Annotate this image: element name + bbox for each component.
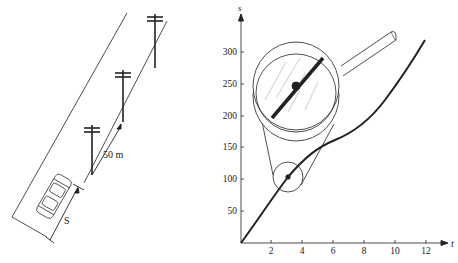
distance-label: 50 m <box>103 149 124 160</box>
magnified-data-point <box>292 82 300 90</box>
data-point <box>286 175 290 179</box>
y-tick-label: 50 <box>228 206 238 216</box>
x-axis-arrow-icon <box>441 241 448 246</box>
magnifying-glass-icon <box>253 32 396 141</box>
car-icon <box>35 173 73 220</box>
position-label: S <box>64 215 70 226</box>
figure-canvas: 50 m S <box>0 0 458 263</box>
road-bottom-edge <box>12 217 47 237</box>
y-tick-label: 250 <box>223 79 238 89</box>
utility-pole-icon <box>84 125 100 175</box>
x-tick-label: 10 <box>390 246 400 256</box>
arrow-icon <box>117 124 121 129</box>
magnifier-handle <box>341 32 396 76</box>
y-tick-label: 300 <box>223 47 238 57</box>
road-left-edge <box>12 13 127 217</box>
y-tick-label: 100 <box>223 174 238 184</box>
x-tick-label: 8 <box>362 246 367 256</box>
y-tick-label: 150 <box>223 142 238 152</box>
y-ticks <box>241 52 244 211</box>
y-axis-label: s <box>238 3 242 13</box>
utility-pole-icon <box>147 14 163 68</box>
graph <box>239 14 449 246</box>
arrow-icon <box>75 188 79 193</box>
x-tick-labels: 2 4 6 8 10 12 <box>269 246 431 256</box>
x-tick-label: 6 <box>331 246 336 256</box>
x-ticks <box>271 240 426 243</box>
x-tick-label: 2 <box>269 246 274 256</box>
x-tick-label: 12 <box>421 246 431 256</box>
road-diagram <box>12 13 167 243</box>
y-tick-label: 200 <box>223 111 238 121</box>
y-axis-arrow-icon <box>239 14 244 21</box>
x-axis-label: t <box>451 238 454 249</box>
x-tick-label: 4 <box>300 246 305 256</box>
y-tick-labels: 50 100 150 200 250 300 <box>223 47 238 216</box>
